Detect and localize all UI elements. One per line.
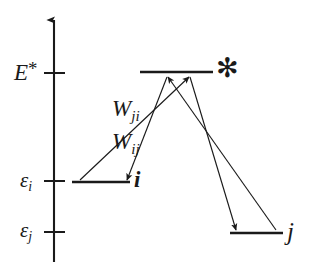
transition-arrow-relaxation-to-j — [190, 77, 236, 230]
axis-label-energy-star: E* — [14, 60, 38, 84]
rate-label-W-ji-base: W — [112, 96, 131, 121]
transition-arrow-excitation-from-j — [168, 77, 276, 230]
state-label-j: j — [287, 219, 294, 244]
axis-label-energy-star-superscript: * — [28, 58, 37, 79]
rate-label-W-ji: Wji — [112, 97, 140, 123]
axis-label-energy-star-base: E — [14, 60, 28, 85]
transition-arrow-relaxation-to-i — [127, 77, 167, 180]
state-label-i: i — [134, 168, 140, 191]
transition-arrow-excitation-from-i — [80, 77, 189, 180]
rate-label-W-ij-base: W — [112, 129, 131, 154]
state-label-excited-asterisk: ✻ — [216, 55, 239, 82]
axis-label-epsilon-i-subscript: i — [28, 179, 32, 194]
energy-level-diagram: E* εi εj Wji Wij i j ✻ — [0, 0, 318, 271]
rate-label-W-ij: Wij — [112, 130, 140, 156]
axis-label-epsilon-i: εi — [20, 170, 32, 194]
axis-label-epsilon-j-subscript: j — [28, 229, 32, 244]
rate-label-W-ij-subscript: ij — [131, 140, 140, 157]
rate-label-W-ji-subscript: ji — [131, 107, 140, 124]
axis-label-epsilon-j: εj — [20, 220, 32, 244]
diagram-canvas — [0, 0, 318, 271]
